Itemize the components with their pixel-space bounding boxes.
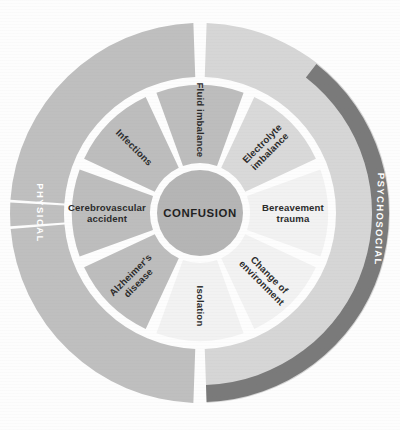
segment-label-isolation: Isolation (195, 286, 206, 327)
hub-label: CONFUSION (163, 207, 237, 219)
ring-label-physical: PHYSICAL (35, 183, 46, 242)
segment-label-line: Cerebrovascular (68, 202, 146, 213)
segment-label-fluid-imbalance: Fluid imbalance (195, 83, 206, 158)
segment-label-line: Bereavement (262, 202, 325, 213)
segment-label-line: Isolation (195, 286, 206, 327)
segment-label-line: trauma (277, 213, 310, 224)
segment-label-line: accident (87, 213, 128, 224)
wheel-svg: CONFUSION Fluid imbalanceInfectionsCereb… (0, 0, 400, 430)
segment-label-line: Fluid imbalance (195, 83, 206, 158)
confusion-causes-diagram: CONFUSION Fluid imbalanceInfectionsCereb… (0, 0, 400, 430)
hub-group: CONFUSION (157, 170, 243, 256)
